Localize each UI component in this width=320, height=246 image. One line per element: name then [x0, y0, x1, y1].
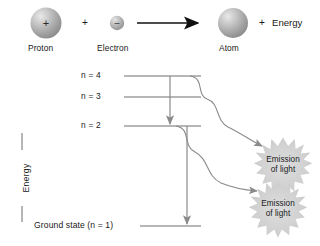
electron-sphere: – — [110, 16, 124, 30]
emission-label-2: Emission of light — [247, 199, 309, 218]
emission-label-1-line2: of light — [271, 165, 296, 174]
proton-sphere: + — [31, 8, 62, 39]
level-label-n1: Ground state (n = 1) — [34, 221, 113, 230]
product-plus-operator: + — [259, 18, 265, 28]
diagram-canvas: + – + Proton Ele — [0, 0, 320, 246]
level-label-n2: n = 2 — [81, 121, 101, 129]
emission-label-2-line2: of light — [266, 209, 291, 218]
atom-sphere — [218, 8, 248, 38]
product-energy-label: Energy — [272, 18, 302, 28]
emission-label-1: Emission of light — [252, 155, 314, 174]
emission-label-2-line1: Emission — [261, 199, 295, 208]
energy-axis-label: Energy — [20, 150, 32, 206]
level-label-n4: n = 4 — [81, 71, 101, 79]
svg-text:–: – — [114, 18, 119, 28]
proton-label: Proton — [28, 44, 53, 52]
emission-wave-path-1 — [190, 76, 262, 146]
level-label-n3: n = 3 — [81, 92, 101, 100]
emission-label-1-line1: Emission — [266, 155, 300, 164]
electron-label: Electron — [97, 44, 129, 52]
atom-label: Atom — [219, 44, 239, 52]
svg-text:+: + — [43, 17, 49, 29]
reaction-plus-operator: + — [82, 18, 88, 28]
